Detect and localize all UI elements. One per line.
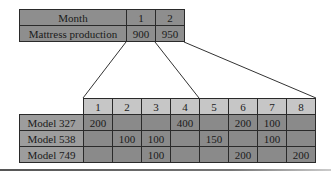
detail-col-header: 3	[142, 99, 171, 115]
detail-header-row: 1 2 3 4 5 6 7 8	[20, 99, 316, 115]
detail-col-header: 7	[258, 99, 287, 115]
detail-row-label: Model 327	[20, 115, 84, 131]
detail-cell	[200, 115, 229, 131]
detail-row-label: Model 538	[20, 131, 84, 147]
detail-cell: 200	[84, 115, 113, 131]
detail-cell	[287, 131, 316, 147]
detail-col-header: 2	[113, 99, 142, 115]
detail-cell	[84, 147, 113, 163]
detail-cell	[171, 131, 200, 147]
detail-cell: 100	[142, 131, 171, 147]
detail-cell: 200	[287, 147, 316, 163]
connector-line-middle	[155, 42, 199, 98]
detail-corner	[20, 99, 84, 115]
detail-cell	[229, 131, 258, 147]
detail-cell: 400	[171, 115, 200, 131]
detail-col-header: 8	[287, 99, 316, 115]
detail-col-header: 1	[84, 99, 113, 115]
bottom-rule	[0, 169, 331, 171]
detail-table: 1 2 3 4 5 6 7 8 Model 327 200 400 200 10…	[19, 98, 316, 163]
detail-row: Model 327 200 400 200 100	[20, 115, 316, 131]
detail-col-header: 5	[200, 99, 229, 115]
detail-cell	[113, 147, 142, 163]
detail-cell	[287, 115, 316, 131]
detail-cell: 100	[258, 131, 287, 147]
detail-row-label: Model 749	[20, 147, 84, 163]
detail-row: Model 749 100 200 200	[20, 147, 316, 163]
connector-line-left	[83, 42, 126, 98]
detail-cell	[258, 147, 287, 163]
connector-line-right	[184, 42, 316, 98]
detail-cell: 150	[200, 131, 229, 147]
detail-cell: 200	[229, 115, 258, 131]
detail-cell	[171, 147, 200, 163]
detail-cell	[200, 147, 229, 163]
detail-cell: 100	[258, 115, 287, 131]
detail-col-header: 6	[229, 99, 258, 115]
detail-cell	[113, 115, 142, 131]
detail-cell: 100	[113, 131, 142, 147]
detail-cell	[84, 131, 113, 147]
detail-col-header: 4	[171, 99, 200, 115]
detail-row: Model 538 100 100 150 100	[20, 131, 316, 147]
detail-cell: 100	[142, 147, 171, 163]
detail-cell: 200	[229, 147, 258, 163]
detail-cell	[142, 115, 171, 131]
